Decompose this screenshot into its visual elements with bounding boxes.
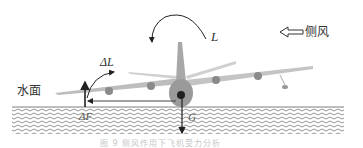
lift-rotation-arrow bbox=[152, 15, 206, 42]
delta-lift-label: ΔL bbox=[100, 56, 114, 68]
water-surface bbox=[12, 107, 344, 134]
aircraft-icon bbox=[55, 42, 313, 107]
water-surface-label: 水面 bbox=[17, 85, 41, 97]
gravity-label: G bbox=[188, 112, 196, 123]
delta-force-label: ΔF bbox=[79, 111, 92, 122]
crosswind-arrow-icon bbox=[280, 27, 303, 37]
crosswind-label: 侧风 bbox=[305, 26, 329, 38]
figure-caption: 图 9 侧风作用下飞机受力分析 bbox=[100, 137, 221, 148]
diagram-canvas: 水面 侧风 ΔL L ΔF G 图 9 侧风作用下飞机受力分析 bbox=[0, 0, 363, 148]
lift-label: L bbox=[211, 30, 218, 43]
force-diagram-svg bbox=[0, 0, 363, 148]
